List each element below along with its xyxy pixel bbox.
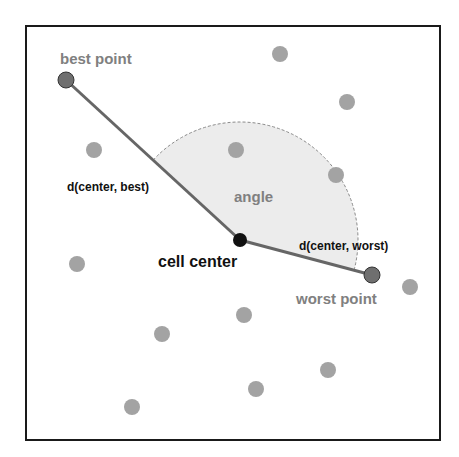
diagram-canvas: best point worst point cell center angle… — [0, 0, 459, 457]
sample-point — [328, 167, 344, 183]
sample-point — [272, 46, 288, 62]
best-point — [58, 72, 74, 88]
worst-point — [364, 267, 380, 283]
d-center-worst-label: d(center, worst) — [299, 239, 388, 253]
angle-label: angle — [234, 188, 273, 205]
sample-point — [248, 381, 264, 397]
sample-point — [154, 326, 170, 342]
sample-point — [69, 256, 85, 272]
sample-point — [86, 142, 102, 158]
cell-center-label: cell center — [158, 253, 237, 270]
worst-point-label: worst point — [295, 290, 377, 307]
sample-point — [236, 307, 252, 323]
cell-center-point — [233, 233, 247, 247]
sample-point — [402, 279, 418, 295]
sample-point — [124, 399, 140, 415]
sample-point — [228, 142, 244, 158]
d-center-best-label: d(center, best) — [67, 180, 149, 194]
sample-point — [339, 94, 355, 110]
sample-point — [320, 362, 336, 378]
best-point-label: best point — [60, 50, 132, 67]
